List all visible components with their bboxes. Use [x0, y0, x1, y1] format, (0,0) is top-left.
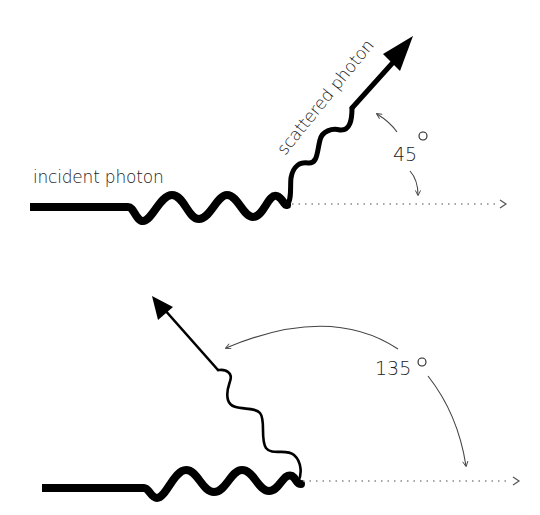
incident-photon-bottom	[42, 470, 301, 498]
incident-photon-label: incident photon	[33, 167, 163, 187]
reference-axis-bottom	[303, 477, 519, 485]
bottom-panel-135-degree: 135	[42, 296, 519, 498]
compton-scattering-diagram: incident photon scattered photon 45 135	[0, 0, 540, 515]
top-panel-45-degree: incident photon scattered photon 45	[30, 35, 506, 221]
reference-axis-top	[292, 200, 506, 208]
angle-label-135: 135	[375, 357, 411, 379]
angle-label-45: 45	[393, 143, 417, 165]
degree-symbol-icon	[418, 358, 426, 366]
angle-arc-135	[226, 326, 466, 466]
incident-photon-top	[30, 195, 287, 221]
degree-symbol-icon	[419, 132, 427, 140]
scattered-photon-bottom	[152, 296, 301, 482]
